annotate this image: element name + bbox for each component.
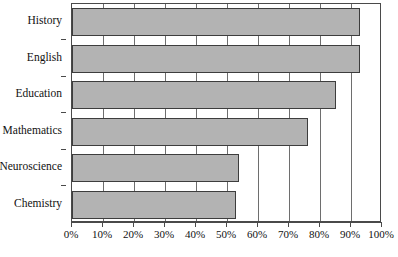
y-axis-label-chemistry: Chemistry bbox=[14, 198, 62, 210]
x-axis-tick-50 bbox=[226, 222, 227, 227]
y-axis-tick-2 bbox=[61, 76, 66, 77]
gridline-50 bbox=[227, 4, 228, 221]
x-axis-tick-label-70: 70% bbox=[278, 229, 298, 240]
x-axis-tick-70 bbox=[288, 222, 289, 227]
y-axis-tick-4 bbox=[61, 149, 66, 150]
gridline-70 bbox=[289, 4, 290, 221]
gridline-10 bbox=[103, 4, 104, 221]
x-axis-tick-20 bbox=[133, 222, 134, 227]
x-axis-tick-label-60: 60% bbox=[247, 229, 267, 240]
x-axis: 0%10%20%30%40%50%60%70%80%90%100% bbox=[71, 222, 381, 257]
gridline-90 bbox=[351, 4, 352, 221]
y-axis-label-history: History bbox=[28, 15, 63, 27]
x-axis-tick-90 bbox=[350, 222, 351, 227]
x-axis-tick-label-100: 100% bbox=[368, 229, 394, 240]
x-axis-tick-label-20: 20% bbox=[123, 229, 143, 240]
x-axis-tick-80 bbox=[319, 222, 320, 227]
y-axis-tick-3 bbox=[61, 112, 66, 113]
bar-education bbox=[72, 81, 336, 109]
bar-history bbox=[72, 8, 360, 36]
x-axis-tick-0 bbox=[71, 222, 72, 227]
bar-mathematics bbox=[72, 118, 308, 146]
y-axis-tick-1 bbox=[61, 39, 66, 40]
bar-chart: HistoryEnglishEducationMathematicsNeuros… bbox=[0, 0, 398, 257]
plot-area bbox=[71, 3, 381, 222]
x-axis-tick-label-0: 0% bbox=[64, 229, 79, 240]
x-axis-tick-label-80: 80% bbox=[309, 229, 329, 240]
gridline-40 bbox=[196, 4, 197, 221]
bar-neuroscience bbox=[72, 154, 239, 182]
y-axis-tick-5 bbox=[61, 185, 66, 186]
y-axis-label-neuroscience: Neuroscience bbox=[0, 161, 62, 173]
x-axis-tick-40 bbox=[195, 222, 196, 227]
x-axis-tick-label-90: 90% bbox=[340, 229, 360, 240]
x-axis-tick-10 bbox=[102, 222, 103, 227]
x-axis-tick-label-40: 40% bbox=[185, 229, 205, 240]
gridline-30 bbox=[165, 4, 166, 221]
y-axis-label-english: English bbox=[27, 52, 62, 64]
x-axis-tick-label-10: 10% bbox=[92, 229, 112, 240]
bar-chemistry bbox=[72, 191, 236, 219]
x-axis-tick-60 bbox=[257, 222, 258, 227]
gridline-80 bbox=[320, 4, 321, 221]
x-axis-tick-30 bbox=[164, 222, 165, 227]
bar-english bbox=[72, 45, 360, 73]
y-axis-label-education: Education bbox=[15, 88, 62, 100]
y-axis-category-labels: HistoryEnglishEducationMathematicsNeuros… bbox=[0, 3, 66, 222]
y-axis-label-mathematics: Mathematics bbox=[3, 125, 62, 137]
gridline-60 bbox=[258, 4, 259, 221]
gridline-20 bbox=[134, 4, 135, 221]
x-axis-tick-label-50: 50% bbox=[216, 229, 236, 240]
x-axis-tick-label-30: 30% bbox=[154, 229, 174, 240]
x-axis-tick-100 bbox=[381, 222, 382, 227]
